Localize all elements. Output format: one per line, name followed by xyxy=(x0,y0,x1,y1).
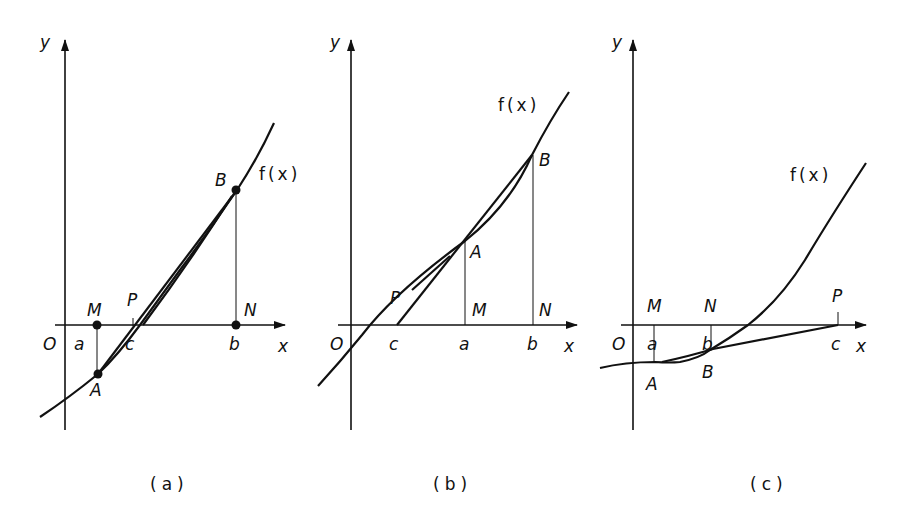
point-B-label: B xyxy=(702,362,714,382)
point-A-dot xyxy=(94,370,103,379)
point-M-label: M xyxy=(87,300,102,320)
point-P-label: P xyxy=(127,290,138,310)
point-M-dot xyxy=(93,321,102,330)
point-B-label: B xyxy=(539,150,551,170)
function-curve xyxy=(600,163,866,368)
point-A-label: A xyxy=(645,374,658,394)
point-N-label: N xyxy=(244,300,257,320)
y-axis-label: y xyxy=(39,32,51,52)
point-M-label: M xyxy=(647,296,662,316)
y-axis-label: y xyxy=(329,32,341,52)
origin-label: O xyxy=(330,334,343,354)
origin-label: O xyxy=(43,334,56,354)
x-axis-label: x xyxy=(277,336,289,356)
curve-label: f(x) xyxy=(259,164,300,184)
point-B-dot xyxy=(232,186,241,195)
secant-line xyxy=(662,325,838,362)
point-P-label: P xyxy=(390,288,401,308)
curve-label: f(x) xyxy=(498,95,539,115)
panel-b: y x O c a b M N P A B f(x) (b) xyxy=(318,32,577,494)
tick-b-label: b xyxy=(229,334,240,354)
point-N-dot xyxy=(232,321,241,330)
point-P-label: P xyxy=(832,286,843,306)
tick-b-label: b xyxy=(527,334,538,354)
panel-caption: (a) xyxy=(150,474,189,494)
x-axis-label: x xyxy=(563,336,575,356)
panel-caption: (b) xyxy=(433,474,472,494)
point-N-label: N xyxy=(539,300,552,320)
point-B-label: B xyxy=(215,170,227,190)
secant-chord xyxy=(98,190,237,374)
panel-caption: (c) xyxy=(750,474,788,494)
tick-c-label: c xyxy=(125,334,135,354)
tick-c-label: c xyxy=(831,334,841,354)
panel-c: y x O a b c M N P A B f(x) (c) xyxy=(600,32,867,494)
point-M-label: M xyxy=(472,300,487,320)
panel-a: y x O a c b M P N A B f(x) (a) xyxy=(39,32,300,494)
tick-a-label: a xyxy=(647,334,657,354)
figure: y x O a c b M P N A B f(x) (a) y x O c a… xyxy=(0,0,909,525)
point-A-label: A xyxy=(469,242,482,262)
origin-label: O xyxy=(612,334,625,354)
point-A-label: A xyxy=(89,380,102,400)
curve-label: f(x) xyxy=(790,165,831,185)
tangent-segment xyxy=(412,256,450,290)
tick-a-label: a xyxy=(74,334,84,354)
function-curve xyxy=(40,123,274,417)
point-N-label: N xyxy=(704,296,717,316)
tick-c-label: c xyxy=(389,334,399,354)
y-axis-label: y xyxy=(611,32,623,52)
x-axis-label: x xyxy=(855,336,867,356)
tick-a-label: a xyxy=(459,334,469,354)
tick-b-label: b xyxy=(702,334,713,354)
